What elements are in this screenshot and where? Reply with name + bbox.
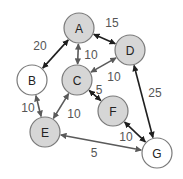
edge-weight-f-g: 10 (119, 130, 133, 144)
node-f: F (98, 96, 128, 126)
edge-weight-c-d: 10 (107, 70, 121, 84)
node-label: F (109, 105, 116, 119)
node-label: G (152, 147, 161, 161)
edge-weight-b-e: 10 (21, 101, 35, 115)
node-label: C (73, 74, 82, 88)
node-a: A (64, 13, 94, 43)
edge-weight-a-b: 20 (33, 39, 47, 53)
edge-weight-c-e: 10 (67, 107, 81, 121)
node-e: E (30, 117, 60, 147)
node-label: B (28, 74, 36, 88)
node-label: E (41, 126, 49, 140)
edge-a-c (78, 44, 79, 64)
node-c: C (62, 65, 92, 95)
edge-weight-e-g: 5 (91, 146, 98, 160)
edge-weight-d-g: 25 (148, 86, 162, 100)
edge-d-g (134, 65, 153, 137)
edge-weight-a-c: 10 (84, 48, 98, 62)
node-d: D (115, 35, 145, 65)
node-label: D (126, 44, 135, 58)
edge-weight-a-d: 15 (105, 16, 119, 30)
node-g: G (142, 138, 172, 168)
edge-a-d (94, 34, 116, 43)
weighted-graph-diagram: 201510105101025105 ABCDEFG (0, 0, 183, 179)
edge-weight-c-f: 5 (96, 83, 103, 97)
node-b: B (17, 65, 47, 95)
node-label: A (75, 22, 83, 36)
edge-b-e (36, 96, 41, 117)
